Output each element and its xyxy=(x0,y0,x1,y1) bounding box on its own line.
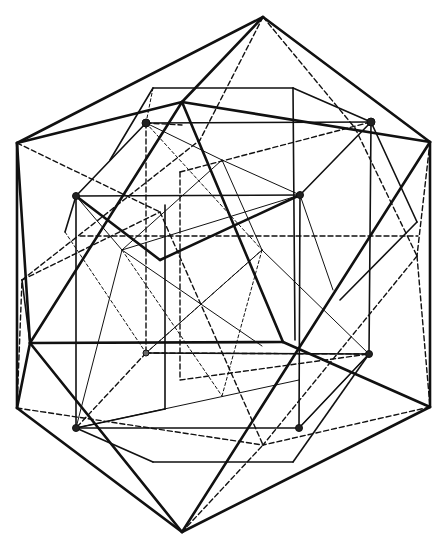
vertex-dot xyxy=(142,119,150,127)
polyhedra-drawing xyxy=(0,0,444,544)
vertex-dot xyxy=(297,192,304,199)
vertex-dot xyxy=(73,425,80,432)
vertex-dot xyxy=(73,193,80,200)
vertex-dot xyxy=(367,118,375,126)
dot-box-edges xyxy=(76,122,418,428)
cube-edges xyxy=(76,88,371,462)
polyhedra-figure xyxy=(0,0,444,544)
vertex-dot xyxy=(143,350,149,356)
icosahedron-edges xyxy=(17,17,430,532)
vertex-dot xyxy=(296,425,303,432)
inner-edges xyxy=(22,122,417,428)
vertex-dot xyxy=(366,351,373,358)
